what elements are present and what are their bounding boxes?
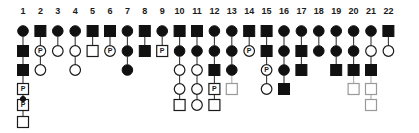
pedigree-symbol-c12-g1[interactable] [209,26,220,37]
pedigree-symbol-c15-g3[interactable]: P [261,65,272,76]
pedigree-symbol-c1-g6[interactable] [18,117,29,128]
female-symbol[interactable] [383,46,394,57]
male-symbol[interactable] [366,84,377,95]
female-symbol[interactable] [227,46,238,57]
pedigree-symbol-c13-g2[interactable] [227,46,238,57]
female-symbol[interactable] [279,26,290,37]
female-symbol[interactable] [174,84,185,95]
pedigree-symbol-c20-g2[interactable] [348,46,359,57]
pedigree-symbol-c11-g4[interactable] [192,84,203,95]
pedigree-symbol-c21-g1[interactable] [366,26,377,37]
female-symbol[interactable] [366,26,377,37]
pedigree-symbol-c18-g2[interactable] [314,46,325,57]
pedigree-symbol-c9-g2[interactable]: P [157,46,168,57]
pedigree-symbol-c20-g1[interactable] [348,26,359,37]
pedigree-symbol-c15-g4[interactable] [261,84,272,95]
pedigree-symbol-c16-g1[interactable] [279,26,290,37]
female-symbol[interactable] [209,46,220,57]
pedigree-symbol-c10-g5[interactable] [174,100,185,111]
pedigree-symbol-c17-g1[interactable] [296,26,307,37]
pedigree-symbol-c11-g5[interactable] [192,100,203,111]
female-symbol[interactable] [261,84,272,95]
female-symbol[interactable] [279,65,290,76]
female-symbol[interactable] [331,46,342,57]
pedigree-symbol-c9-g1[interactable] [157,26,168,37]
female-symbol[interactable] [192,84,203,95]
pedigree-symbol-c12-g2[interactable] [209,46,220,57]
pedigree-symbol-c5-g1[interactable] [87,26,98,37]
pedigree-symbol-c2-g3[interactable] [35,65,46,76]
male-symbol[interactable] [105,26,116,37]
pedigree-symbol-c7-g2[interactable] [122,46,133,57]
pedigree-symbol-c1-g1[interactable] [18,26,29,37]
male-symbol[interactable] [139,26,150,37]
female-symbol[interactable] [192,100,203,111]
female-symbol[interactable] [366,46,377,57]
male-symbol[interactable] [209,65,220,76]
pedigree-symbol-c21-g3[interactable] [366,65,377,76]
female-symbol[interactable] [227,65,238,76]
female-symbol[interactable] [192,46,203,57]
female-symbol[interactable] [157,26,168,37]
pedigree-symbol-c16-g4[interactable] [279,84,290,95]
male-symbol[interactable] [87,26,98,37]
male-symbol[interactable] [261,26,272,37]
pedigree-symbol-c7-g1[interactable] [122,26,133,37]
pedigree-symbol-c6-g2[interactable]: P [105,46,116,57]
pedigree-symbol-c2-g2[interactable]: P [35,46,46,57]
male-symbol[interactable] [366,100,377,111]
female-symbol[interactable] [53,46,64,57]
pedigree-symbol-c1-g4[interactable]: P [18,84,29,95]
female-symbol[interactable] [70,26,81,37]
pedigree-symbol-c13-g3[interactable] [227,65,238,76]
pedigree-symbol-c11-g2[interactable] [192,46,203,57]
male-symbol[interactable] [18,46,29,57]
pedigree-symbol-c5-g2[interactable] [87,46,98,57]
pedigree-symbol-c10-g1[interactable] [174,26,185,37]
pedigree-symbol-c13-g4[interactable] [226,84,237,95]
pedigree-symbol-c22-g2[interactable] [383,46,394,57]
male-symbol[interactable] [209,100,220,111]
pedigree-symbol-c8-g1[interactable] [139,26,150,37]
male-symbol[interactable] [296,46,307,57]
pedigree-symbol-c21-g5[interactable] [366,100,377,111]
pedigree-symbol-c15-g2[interactable] [261,46,272,57]
female-symbol[interactable] [122,46,133,57]
female-symbol[interactable] [348,26,359,37]
female-symbol[interactable] [122,65,133,76]
pedigree-symbol-c12-g4[interactable]: P [209,84,220,95]
pedigree-symbol-c15-g1[interactable] [261,26,272,37]
pedigree-symbol-c14-g2[interactable]: P [244,46,255,57]
pedigree-symbol-c3-g1[interactable] [53,26,64,37]
pedigree-symbol-c10-g4[interactable] [174,84,185,95]
male-symbol[interactable] [174,26,185,37]
female-symbol[interactable] [70,65,81,76]
female-symbol[interactable] [314,46,325,57]
pedigree-symbol-c4-g3[interactable] [70,65,81,76]
male-symbol[interactable] [226,84,237,95]
pedigree-symbol-c19-g1[interactable] [331,26,342,37]
pedigree-symbol-c20-g3[interactable] [348,65,359,76]
pedigree-symbol-c1-g3[interactable] [18,65,29,76]
male-symbol[interactable] [18,117,29,128]
pedigree-symbol-c12-g3[interactable] [209,65,220,76]
female-symbol[interactable] [70,46,81,57]
pedigree-symbol-c3-g2[interactable] [53,46,64,57]
male-symbol[interactable] [348,84,359,95]
female-symbol[interactable] [279,46,290,57]
pedigree-symbol-c18-g1[interactable] [314,26,325,37]
female-symbol[interactable] [174,65,185,76]
pedigree-symbol-c19-g3[interactable] [331,65,342,76]
male-symbol[interactable] [348,65,359,76]
pedigree-symbol-c1-g2[interactable] [18,46,29,57]
pedigree-symbol-c22-g1[interactable] [383,26,394,37]
female-symbol[interactable] [314,26,325,37]
male-symbol[interactable] [35,26,46,37]
female-symbol[interactable] [122,26,133,37]
female-symbol[interactable] [53,26,64,37]
male-symbol[interactable] [383,26,394,37]
male-symbol[interactable] [366,65,377,76]
male-symbol[interactable] [87,46,98,57]
male-symbol[interactable] [174,100,185,111]
pedigree-symbol-c1-g5[interactable]: P [18,96,29,110]
